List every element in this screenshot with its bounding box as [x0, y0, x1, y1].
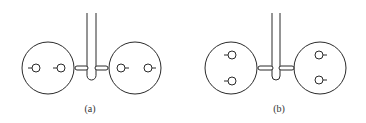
small-circle-a-3 [144, 64, 152, 72]
small-circle-b-2 [315, 51, 323, 59]
small-circle-b-1 [228, 77, 236, 85]
coupling-capsule-b-0 [258, 66, 273, 70]
panel-label-b: (b) [273, 103, 285, 114]
small-circle-b-3 [315, 76, 323, 84]
disc-b-right [294, 42, 346, 94]
diagram-canvas [0, 0, 366, 123]
small-circle-a-0 [32, 64, 40, 72]
small-circle-a-1 [57, 64, 65, 72]
coupling-capsule-b-1 [279, 66, 294, 70]
small-circle-a-2 [117, 64, 125, 72]
u-tube-b [272, 13, 280, 80]
small-circle-b-0 [228, 51, 236, 59]
panel-label-a: (a) [84, 103, 95, 114]
coupling-capsule-a-1 [95, 66, 108, 70]
disc-b-left [205, 42, 257, 94]
coupling-capsule-a-0 [75, 66, 88, 70]
u-tube-a [87, 13, 96, 80]
